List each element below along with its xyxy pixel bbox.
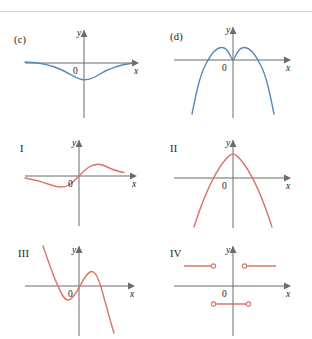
open-circle-icon [242, 264, 246, 268]
panel-label-IV: IV [170, 248, 181, 259]
origin-label-IV: 0 [222, 289, 227, 299]
y-axis-arrow-icon [76, 246, 83, 253]
panel-I: y x 0 I [0, 126, 156, 234]
origin-label-III: 0 [68, 289, 73, 299]
curve-c [25, 62, 132, 80]
axes-I [25, 140, 137, 226]
x-axis-label-II: x [285, 181, 291, 191]
origin-label-I: 0 [68, 179, 73, 189]
y-axis-arrow-icon [81, 30, 88, 37]
figure-panel-grid: y x 0 (c) y x 0 (d) [0, 14, 312, 339]
x-axis-label-IV: x [285, 289, 291, 299]
x-axis-label-III: x [129, 289, 135, 299]
panel-d: y x 0 (d) [156, 18, 312, 126]
y-axis-label-III: y [71, 245, 77, 255]
axes-d [174, 27, 291, 118]
panel-label-II: II [170, 143, 177, 154]
axes-III [25, 246, 135, 336]
x-axis-label-d: x [285, 63, 291, 73]
origin-label-c: 0 [73, 66, 78, 76]
axes-II [174, 140, 291, 228]
origin-label-d: 0 [222, 63, 227, 73]
y-axis-arrow-icon [230, 27, 237, 34]
top-divider-rule [0, 11, 312, 12]
panel-label-c: (c) [14, 34, 26, 45]
panel-label-d: (d) [170, 31, 183, 42]
y-axis-label-d: y [225, 25, 231, 35]
x-axis-label-I: x [131, 179, 137, 189]
open-circle-icon [246, 302, 250, 306]
x-axis-label-c: x [133, 66, 139, 76]
y-axis-label-I: y [71, 138, 77, 148]
step-segments-IV [184, 266, 276, 304]
panel-III: y x 0 III [0, 234, 156, 339]
y-axis-label-II: y [225, 138, 231, 148]
y-axis-label-c: y [76, 28, 82, 38]
open-circle-endpoints-IV [211, 264, 250, 306]
y-axis-arrow-icon [230, 246, 237, 253]
y-axis-arrow-icon [230, 140, 237, 147]
y-axis-label-IV: y [225, 245, 231, 255]
panel-IV: y x 0 IV [156, 234, 312, 339]
axes-IV [174, 246, 291, 336]
panel-label-III: III [18, 248, 29, 259]
y-axis-arrow-icon [76, 140, 83, 147]
open-circle-icon [211, 264, 215, 268]
panel-II: y x 0 II [156, 126, 312, 234]
open-circle-icon [211, 302, 215, 306]
axes-c [25, 30, 139, 118]
origin-label-II: 0 [222, 181, 227, 191]
panel-c: y x 0 (c) [0, 18, 156, 126]
panel-label-I: I [20, 143, 24, 154]
